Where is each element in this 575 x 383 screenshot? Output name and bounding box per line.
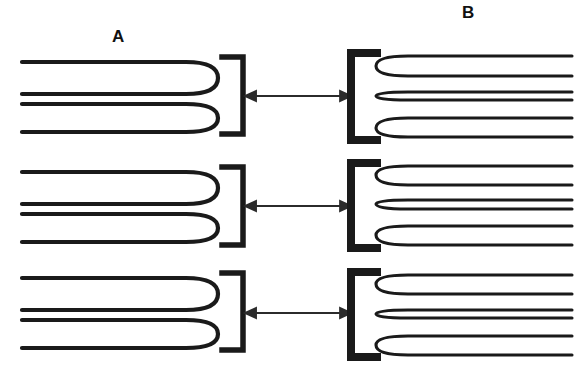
hairpin-loop [376,310,572,318]
hairpin-loop [376,226,572,245]
loop-unit-a3 [22,278,218,348]
hairpin-loop [22,278,218,310]
panel-b-brackets [351,53,377,357]
opening-bracket [351,53,377,140]
hairpin-loop [376,200,572,209]
panel-b-label: B [462,4,475,21]
loop-unit-a2 [22,172,218,242]
closing-bracket [222,167,243,245]
hairpin-loop [376,92,572,100]
opening-bracket [351,163,377,248]
hairpin-loop [376,118,572,137]
panel-a-label: A [112,28,125,45]
hairpin-loop [376,56,572,76]
hairpin-loop [22,172,218,204]
hairpin-loop [376,336,572,355]
diagram-svg [0,0,575,383]
hairpin-loop [376,275,572,294]
opening-bracket [351,272,377,357]
closing-bracket [222,57,243,134]
loop-unit-b1 [376,56,572,137]
panel-a-fibers [22,62,218,348]
hairpin-loop [22,62,218,94]
closing-bracket [222,273,243,350]
loop-unit-b3 [376,275,572,355]
transition-arrows [256,96,341,313]
panel-a-brackets [222,57,243,350]
hairpin-loop [376,166,572,185]
hairpin-loop [22,214,218,242]
panel-b-fibers [376,56,572,355]
loop-unit-b2 [376,166,572,245]
hairpin-loop [22,320,218,348]
figure-canvas: A B [0,0,575,383]
hairpin-loop [22,104,218,132]
loop-unit-a1 [22,62,218,132]
